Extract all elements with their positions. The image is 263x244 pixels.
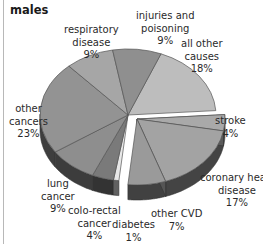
label-lung-cancer: lung cancer 9% xyxy=(41,178,75,216)
label-stroke: stroke 4% xyxy=(215,115,246,140)
label-other-cvd: other CVD 7% xyxy=(151,208,202,233)
label-other-cancers: other cancers 23% xyxy=(9,103,48,141)
label-respiratory-disease: respiratory disease 9% xyxy=(64,24,119,62)
label-all-other-causes: all other causes 18% xyxy=(181,38,223,76)
pie-wall-diabetes xyxy=(113,180,119,196)
label-colo-rectal-cancer: colo-rectal cancer 4% xyxy=(68,205,121,243)
label-coronary-heart-disease: coronary heart disease 17% xyxy=(200,172,263,210)
